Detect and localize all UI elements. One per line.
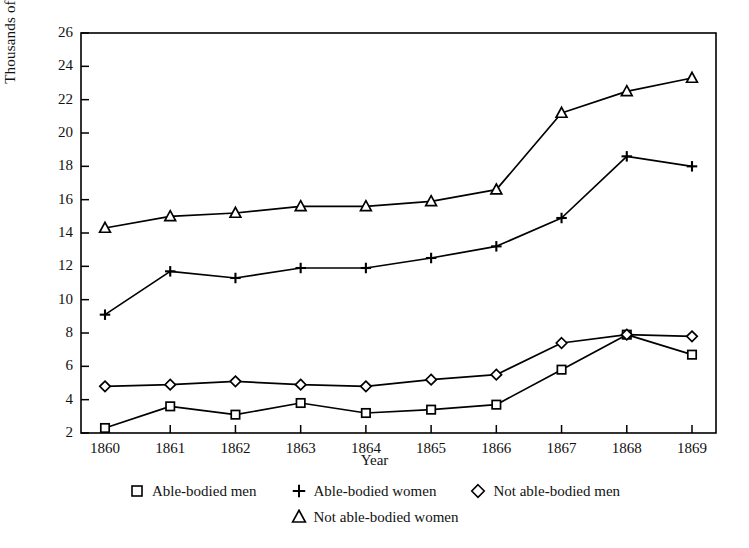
- chart-container: Thousands of paupers Year 24681012141618…: [0, 0, 749, 548]
- series-line: [105, 335, 692, 428]
- diamond-legend-icon: [470, 483, 486, 499]
- legend-row-primary: Able-bodied menAble-bodied womenNot able…: [0, 478, 749, 504]
- plus-legend-icon: [291, 483, 307, 499]
- diamond-marker: [491, 369, 502, 380]
- plot-area: [0, 0, 749, 548]
- series-line: [105, 156, 692, 314]
- diamond-marker: [556, 338, 567, 349]
- plus-icon: [291, 483, 307, 499]
- square-marker: [492, 400, 500, 408]
- triangle-marker: [292, 510, 305, 522]
- plus-marker: [687, 161, 698, 172]
- series-line: [105, 335, 692, 387]
- series-line: [105, 78, 692, 228]
- square-legend-icon: [129, 483, 145, 499]
- series-layer: [100, 72, 698, 432]
- diamond-marker: [687, 331, 698, 342]
- square-marker: [166, 402, 174, 410]
- legend-item: Able-bodied women: [291, 483, 437, 500]
- legend-label: Able-bodied women: [314, 483, 437, 500]
- plus-marker: [230, 273, 241, 284]
- square-marker: [557, 365, 565, 373]
- plus-marker: [292, 485, 305, 498]
- diamond-marker: [230, 376, 241, 387]
- triangle-marker: [687, 72, 698, 82]
- plus-marker: [491, 241, 502, 252]
- diamond-marker: [472, 485, 485, 498]
- triangle-icon: [291, 509, 307, 525]
- legend-item: Not able-bodied women: [291, 509, 459, 526]
- diamond-marker: [295, 379, 306, 390]
- square-icon: [129, 483, 145, 499]
- legend-label: Not able-bodied men: [493, 483, 620, 500]
- plus-marker: [100, 309, 111, 320]
- legend-item: Able-bodied men: [129, 483, 257, 500]
- square-marker: [427, 405, 435, 413]
- series-triangle: [100, 72, 698, 232]
- series-plus: [100, 151, 698, 320]
- square-marker: [296, 399, 304, 407]
- series-diamond: [100, 329, 698, 391]
- square-marker: [101, 424, 109, 432]
- diamond-marker: [100, 381, 111, 392]
- square-marker: [132, 486, 142, 496]
- diamond-marker: [361, 381, 372, 392]
- diamond-marker: [165, 379, 176, 390]
- legend-row-secondary: Not able-bodied women: [0, 504, 749, 530]
- plus-marker: [426, 253, 437, 264]
- diamond-marker: [426, 374, 437, 385]
- square-marker: [688, 350, 696, 358]
- legend-label: Able-bodied men: [152, 483, 257, 500]
- diamond-icon: [470, 483, 486, 499]
- plus-marker: [295, 263, 306, 274]
- plus-marker: [361, 263, 372, 274]
- chart-legend: Able-bodied menAble-bodied womenNot able…: [0, 478, 749, 530]
- triangle-legend-icon: [291, 509, 307, 525]
- legend-item: Not able-bodied men: [470, 483, 620, 500]
- plus-marker: [165, 266, 176, 277]
- legend-label: Not able-bodied women: [314, 509, 459, 526]
- series-square: [101, 330, 696, 432]
- square-marker: [362, 409, 370, 417]
- square-marker: [231, 410, 239, 418]
